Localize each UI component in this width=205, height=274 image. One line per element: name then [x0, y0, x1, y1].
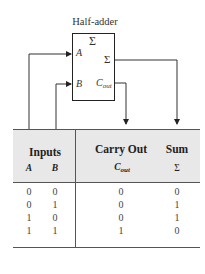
cell-sum: 0: [167, 225, 187, 236]
header-sum: Sum: [160, 143, 194, 155]
wire-input-b: [56, 84, 71, 129]
cell-b: 1: [45, 199, 65, 210]
cell-a: 1: [19, 212, 39, 223]
diagram-title: Half-adder: [71, 16, 119, 27]
wire-input-a: [29, 54, 71, 129]
table-header-rule: [13, 182, 200, 183]
output-label-carry: Cout: [96, 77, 112, 90]
carry-subscript: out: [103, 82, 112, 90]
table-top-rule: [13, 129, 200, 130]
carry-main: C: [96, 77, 103, 88]
cell-b: 1: [45, 225, 65, 236]
cell-a: 1: [19, 225, 39, 236]
cell-cout: 1: [111, 225, 131, 236]
header-inputs: Inputs: [20, 146, 70, 158]
cell-cout: 0: [111, 212, 131, 223]
cout-subscript: out: [121, 166, 130, 174]
cell-sum: 1: [167, 212, 187, 223]
header-col-cout: Cout: [106, 162, 138, 174]
cell-b: 0: [45, 186, 65, 197]
header-col-sigma: Σ: [167, 163, 187, 173]
cell-cout: 0: [111, 186, 131, 197]
cell-a: 0: [19, 186, 39, 197]
cell-sum: 1: [167, 199, 187, 210]
cell-a: 0: [19, 199, 39, 210]
wire-output-sum: [115, 60, 177, 124]
cell-cout: 0: [111, 199, 131, 210]
table-column-divider: [75, 129, 76, 248]
table-bottom-rule: [13, 247, 200, 248]
header-carry-out: Carry Out: [91, 143, 151, 155]
wire-output-carry: [115, 83, 126, 124]
cell-b: 0: [45, 212, 65, 223]
block-sigma-symbol: Σ: [89, 34, 96, 49]
cell-sum: 0: [167, 186, 187, 197]
output-label-sum: Σ: [104, 53, 110, 65]
input-label-b: B: [76, 78, 82, 89]
input-label-a: A: [76, 47, 82, 58]
header-col-a: A: [19, 163, 39, 173]
header-col-b: B: [45, 163, 65, 173]
